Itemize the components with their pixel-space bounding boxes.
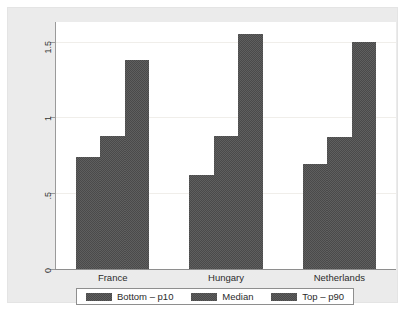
legend-entry[interactable]: Top – p90 <box>271 291 344 302</box>
bars-layer <box>56 22 396 269</box>
bar <box>189 175 214 269</box>
chart-legend: Bottom – p10MedianTop – p90 <box>76 288 354 305</box>
legend-swatch-icon <box>191 293 217 301</box>
bar <box>238 34 263 269</box>
x-axis-category-label: Hungary <box>169 272 282 283</box>
legend-label: Median <box>222 291 253 302</box>
chart-figure: 0.511.5 FranceHungaryNetherlands Bottom … <box>0 0 410 316</box>
bar <box>303 164 328 269</box>
figure-frame: 0.511.5 FranceHungaryNetherlands Bottom … <box>7 7 398 303</box>
legend-swatch-icon <box>86 293 112 301</box>
y-tick-label: .5 <box>43 192 53 232</box>
y-tick-label: 0 <box>43 268 53 308</box>
legend-entry[interactable]: Bottom – p10 <box>86 291 174 302</box>
bar <box>76 157 101 269</box>
legend-entry[interactable]: Median <box>191 291 253 302</box>
x-axis-category-label: Netherlands <box>283 272 396 283</box>
x-axis-category-label: France <box>56 272 169 283</box>
legend-swatch-icon <box>271 293 297 301</box>
bar <box>352 42 377 269</box>
legend-label: Bottom – p10 <box>117 291 174 302</box>
y-tick-label: 1 <box>43 116 53 156</box>
bar <box>100 136 125 269</box>
x-axis-line <box>55 269 396 270</box>
y-tick-label: 1.5 <box>43 41 53 81</box>
bar <box>327 137 352 269</box>
bar <box>214 136 239 269</box>
legend-label: Top – p90 <box>302 291 344 302</box>
bar <box>125 60 150 269</box>
